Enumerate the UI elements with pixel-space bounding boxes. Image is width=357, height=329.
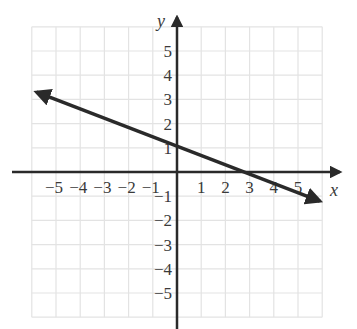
y-tick-label: −2 [154,211,172,230]
x-tick-label: −2 [118,178,136,197]
x-tick-label: −3 [93,178,111,197]
x-tick-label: −4 [69,178,88,197]
y-tick-label: 3 [164,90,173,109]
x-tick-label: 1 [197,178,206,197]
x-axis-label: x [329,180,338,200]
y-tick-label: −5 [154,284,172,303]
y-tick-label: 4 [164,66,173,85]
coordinate-plane: −5−4−3−2−11234554321−1−2−3−4−5 x y [0,0,357,329]
y-tick-label: −3 [154,236,172,255]
x-tick-label: 2 [221,178,230,197]
axes [12,17,340,329]
y-tick-label: −1 [154,187,172,206]
x-tick-label: −5 [45,178,63,197]
y-tick-label: 2 [164,115,173,134]
y-axis-label: y [155,11,165,31]
y-tick-label: 5 [164,42,173,61]
y-tick-label: −4 [154,260,173,279]
x-tick-label: 3 [245,178,254,197]
